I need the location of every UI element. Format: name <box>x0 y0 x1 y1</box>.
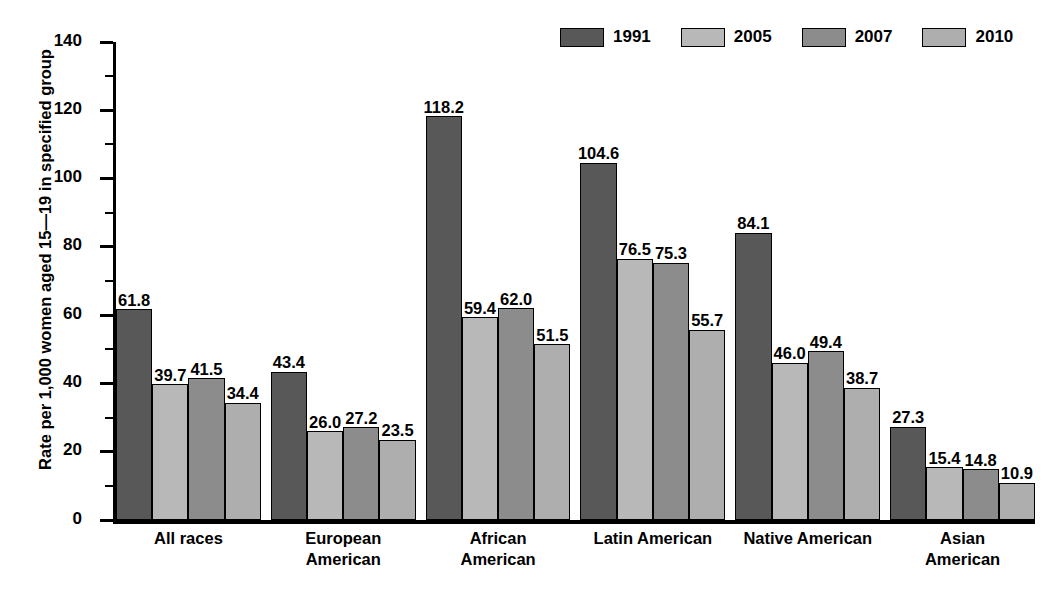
bar-value-label: 38.7 <box>846 370 878 387</box>
bar-1991[interactable]: 43.4 <box>271 372 307 520</box>
bar-2005[interactable]: 76.5 <box>617 259 653 520</box>
bar-group: 118.259.462.051.5 <box>426 42 581 520</box>
bar-slot: 27.3 <box>890 42 926 520</box>
bar-1991[interactable]: 118.2 <box>426 116 462 520</box>
bar-value-label: 15.4 <box>928 450 960 467</box>
bar-slot: 75.3 <box>653 42 689 520</box>
x-axis-label-line: European <box>271 528 416 549</box>
y-tick-major: 100 <box>100 177 113 180</box>
bar-1991[interactable]: 104.6 <box>580 163 616 520</box>
bar-groups: 61.839.741.534.443.426.027.223.5118.259.… <box>116 42 1035 520</box>
bar-2010[interactable]: 51.5 <box>534 344 570 520</box>
bar-2010[interactable]: 23.5 <box>379 440 415 520</box>
y-tick-major: 0 <box>100 519 113 522</box>
bar-slot: 55.7 <box>689 42 725 520</box>
bar-slot: 59.4 <box>462 42 498 520</box>
y-tick-major: 80 <box>100 245 113 248</box>
bar-2005[interactable]: 46.0 <box>772 363 808 520</box>
x-axis-label-5: AsianAmerican <box>890 528 1035 570</box>
bar-group: 104.676.575.355.7 <box>580 42 735 520</box>
y-tick-label: 120 <box>54 99 82 119</box>
bar-2010[interactable]: 55.7 <box>689 330 725 520</box>
bar-value-label: 27.3 <box>892 409 924 426</box>
plot-area: 020406080100120140 61.839.741.534.443.42… <box>113 42 1035 520</box>
bar-group: 27.315.414.810.9 <box>890 42 1035 520</box>
bar-2005[interactable]: 39.7 <box>152 384 188 520</box>
bar-2007[interactable]: 75.3 <box>653 263 689 520</box>
bar-value-label: 39.7 <box>154 367 186 384</box>
y-tick-major: 140 <box>100 41 113 44</box>
y-tick-minor <box>105 75 113 77</box>
bar-value-label: 75.3 <box>655 245 687 262</box>
bar-value-label: 104.6 <box>578 145 619 162</box>
bar-value-label: 61.8 <box>118 292 150 309</box>
bar-value-label: 51.5 <box>536 327 568 344</box>
y-axis-title: Rate per 1,000 women aged 15—19 in speci… <box>36 5 55 515</box>
bar-slot: 76.5 <box>617 42 653 520</box>
bar-1991[interactable]: 61.8 <box>116 309 152 520</box>
x-axis-label-4: Native American <box>735 528 890 570</box>
bar-slot: 43.4 <box>271 42 307 520</box>
bar-slot: 104.6 <box>580 42 616 520</box>
bar-chart: 1991200520072010 Rate per 1,000 women ag… <box>0 0 1050 604</box>
bar-slot: 61.8 <box>116 42 152 520</box>
bar-2005[interactable]: 59.4 <box>462 317 498 520</box>
bar-value-label: 46.0 <box>774 345 806 362</box>
x-axis-label-line: African <box>426 528 571 549</box>
y-tick-minor <box>105 348 113 350</box>
bar-slot: 23.5 <box>379 42 415 520</box>
x-axis-label-line: Asian <box>890 528 1035 549</box>
bar-2007[interactable]: 49.4 <box>808 351 844 520</box>
y-tick-label: 0 <box>73 509 82 529</box>
bar-2007[interactable]: 14.8 <box>963 469 999 520</box>
bar-slot: 26.0 <box>307 42 343 520</box>
bar-2007[interactable]: 62.0 <box>498 308 534 520</box>
bar-2010[interactable]: 38.7 <box>844 388 880 520</box>
bar-slot: 39.7 <box>152 42 188 520</box>
x-axis-label-3: Latin American <box>580 528 735 570</box>
y-tick-major: 20 <box>100 450 113 453</box>
x-axis-label-2: AfricanAmerican <box>426 528 581 570</box>
y-tick-minor <box>105 212 113 214</box>
bar-1991[interactable]: 84.1 <box>735 233 771 520</box>
bar-value-label: 55.7 <box>691 312 723 329</box>
y-tick-label: 80 <box>63 235 82 255</box>
bar-value-label: 76.5 <box>619 241 651 258</box>
x-axis-line <box>113 520 1035 524</box>
bar-2007[interactable]: 27.2 <box>343 427 379 520</box>
y-tick-minor <box>105 280 113 282</box>
y-tick-label: 40 <box>63 372 82 392</box>
x-axis-label-line: All races <box>116 528 261 549</box>
y-tick-minor <box>105 485 113 487</box>
bar-slot: 62.0 <box>498 42 534 520</box>
bar-slot: 34.4 <box>225 42 261 520</box>
bar-1991[interactable]: 27.3 <box>890 427 926 520</box>
bar-value-label: 14.8 <box>965 452 997 469</box>
y-tick-label: 20 <box>63 440 82 460</box>
x-axis-label-line: American <box>271 549 416 570</box>
x-axis-label-line: Latin American <box>580 528 725 549</box>
bar-value-label: 41.5 <box>190 361 222 378</box>
y-tick-label: 100 <box>54 167 82 187</box>
bar-slot: 14.8 <box>963 42 999 520</box>
bar-value-label: 62.0 <box>500 291 532 308</box>
bar-2005[interactable]: 26.0 <box>307 431 343 520</box>
bar-2005[interactable]: 15.4 <box>926 467 962 520</box>
bar-value-label: 84.1 <box>737 215 769 232</box>
bar-value-label: 49.4 <box>810 334 842 351</box>
bar-group: 43.426.027.223.5 <box>271 42 426 520</box>
bar-2010[interactable]: 34.4 <box>225 403 261 520</box>
y-tick-major: 120 <box>100 109 113 112</box>
bar-slot: 118.2 <box>426 42 462 520</box>
bar-slot: 49.4 <box>808 42 844 520</box>
bar-2007[interactable]: 41.5 <box>188 378 224 520</box>
bar-value-label: 10.9 <box>1001 465 1033 482</box>
bar-group: 84.146.049.438.7 <box>735 42 890 520</box>
bar-2010[interactable]: 10.9 <box>999 483 1035 520</box>
bar-slot: 10.9 <box>999 42 1035 520</box>
bar-value-label: 26.0 <box>309 414 341 431</box>
bar-value-label: 23.5 <box>381 422 413 439</box>
y-tick-label: 60 <box>63 304 82 324</box>
bar-slot: 41.5 <box>188 42 224 520</box>
x-axis-label-line: American <box>890 549 1035 570</box>
